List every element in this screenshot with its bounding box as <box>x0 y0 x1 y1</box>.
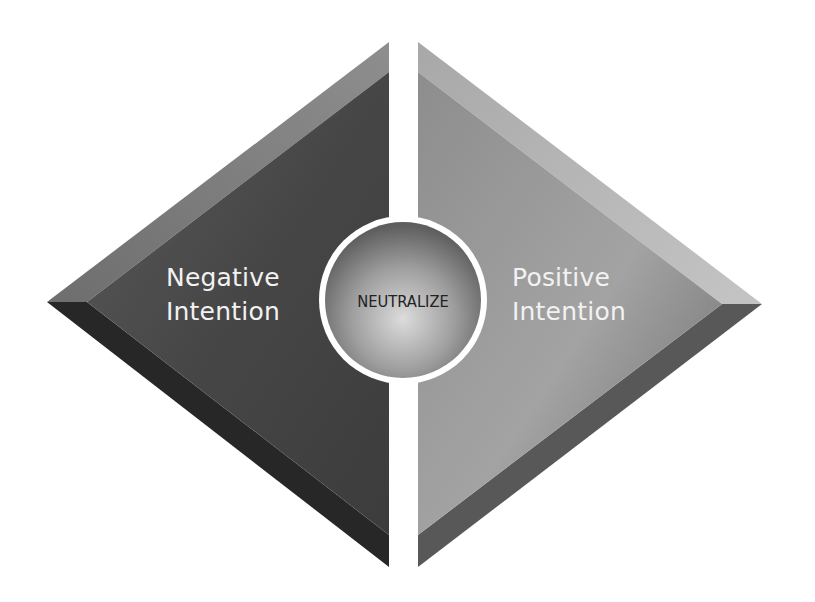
negative-label-line2: Intention <box>166 295 280 329</box>
positive-label-line2: Intention <box>512 295 626 329</box>
intention-diamond-diagram: Negative Intention Positive Intention NE… <box>0 0 815 602</box>
positive-label-line1: Positive <box>512 261 626 295</box>
positive-intention-label: Positive Intention <box>512 261 626 329</box>
neutralize-label: NEUTRALIZE <box>325 292 481 311</box>
negative-intention-label: Negative Intention <box>166 261 280 329</box>
negative-label-line1: Negative <box>166 261 280 295</box>
